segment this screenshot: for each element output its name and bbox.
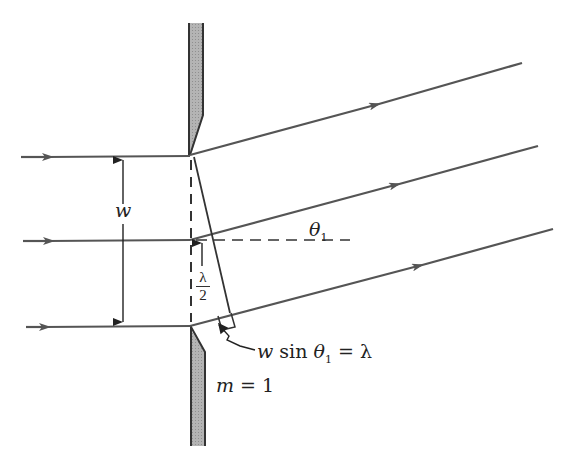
diffraction-diagram: w θ1 λ 2 w sin θ1 = λ m = 1 <box>0 0 578 471</box>
path-difference-pointer <box>219 324 255 350</box>
half-wavelength-numerator: λ <box>196 270 210 287</box>
half-wavelength-denominator: 2 <box>196 287 210 303</box>
angle-label: θ1 <box>309 218 327 244</box>
eq-theta: θ <box>313 340 324 362</box>
eq-sin: sin <box>279 340 307 362</box>
order-rhs: = 1 <box>240 374 274 396</box>
eq-w: w <box>257 340 273 362</box>
eq-rhs: = λ <box>338 340 372 362</box>
outgoing-rays <box>190 63 553 326</box>
diagram-canvas <box>0 0 578 471</box>
half-wavelength-label: λ 2 <box>196 270 210 303</box>
lower-barrier <box>191 326 205 446</box>
incoming-rays <box>21 156 190 327</box>
path-difference-equation: w sin θ1 = λ <box>257 340 372 366</box>
eq-sub: 1 <box>325 353 332 366</box>
angle-subscript: 1 <box>320 231 327 244</box>
angle-symbol: θ <box>309 218 320 240</box>
order-label: m = 1 <box>216 374 274 396</box>
upper-barrier <box>189 23 203 155</box>
slit-width-label: w <box>115 199 131 221</box>
order-m: m <box>216 374 234 396</box>
